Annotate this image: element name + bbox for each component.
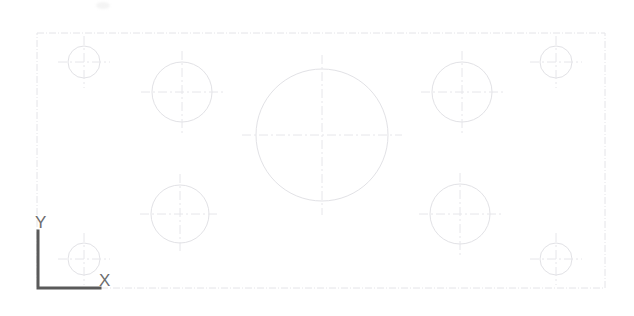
hole-pattern-group — [58, 36, 582, 285]
hole-top-left[interactable] — [58, 36, 110, 88]
scan-smudge-top — [96, 2, 110, 9]
hole-top-right[interactable] — [530, 36, 582, 88]
hole-lower-left[interactable] — [140, 174, 220, 254]
ucs-coordinate-icon[interactable] — [38, 231, 100, 288]
part-outline-group — [37, 33, 605, 288]
hole-center[interactable] — [242, 55, 402, 215]
hole-bottom-right[interactable] — [530, 233, 582, 285]
ucs-axes-path — [38, 231, 100, 288]
ucs-label-x: X — [99, 272, 110, 289]
ucs-label-y: Y — [35, 214, 46, 231]
hole-upper-left[interactable] — [141, 51, 223, 133]
drawing-geometry-layer — [0, 0, 634, 316]
cad-drawing-canvas[interactable]: Y X — [0, 0, 634, 316]
hole-upper-right[interactable] — [421, 51, 503, 133]
hole-lower-right[interactable] — [419, 173, 501, 255]
rectangular-plate-outline — [37, 33, 605, 288]
